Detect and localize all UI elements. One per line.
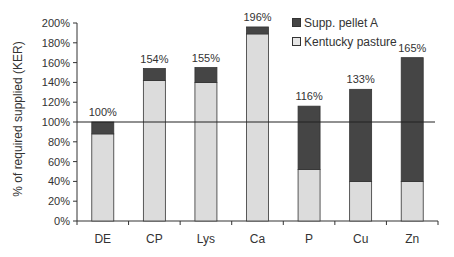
legend-item-pasture: Kentucky pasture: [292, 32, 397, 51]
bar-segment-pellet: [195, 68, 217, 83]
bar-segment-pasture: [247, 34, 269, 221]
bar-segment-pasture: [92, 134, 114, 221]
y-tick-label: 80%: [48, 136, 70, 148]
bar-segment-pasture: [143, 80, 165, 221]
legend-swatch-pellet: [292, 18, 301, 27]
y-tick-label: 40%: [48, 175, 70, 187]
total-value-label: 116%: [295, 90, 323, 102]
legend-label-pellet: Supp. pellet A: [304, 16, 378, 30]
y-tick-label: 0%: [54, 215, 70, 227]
x-category-label: DE: [94, 232, 111, 246]
bar-segment-pasture: [350, 181, 372, 221]
bar-segment-pasture: [195, 82, 217, 221]
bar-segment-pasture: [401, 181, 423, 221]
total-value-label: 165%: [398, 42, 426, 54]
bar-segment-pellet: [247, 27, 269, 34]
total-value-label: 133%: [347, 73, 375, 85]
bar-segment-pasture: [298, 170, 320, 221]
bar-segment-pellet: [350, 89, 372, 181]
total-value-label: 100%: [89, 106, 117, 118]
y-tick-label: 60%: [48, 156, 70, 168]
bar-segment-pellet: [401, 58, 423, 182]
y-tick-label: 100%: [42, 116, 70, 128]
x-category-label: CP: [146, 232, 163, 246]
y-tick-label: 20%: [48, 195, 70, 207]
legend-label-pasture: Kentucky pasture: [304, 35, 397, 49]
y-tick-label: 160%: [42, 57, 70, 69]
y-axis-label: % of required supplied (KER): [11, 39, 25, 199]
bar-segment-pellet: [92, 122, 114, 134]
legend-item-pellet: Supp. pellet A: [292, 13, 397, 32]
legend: Supp. pellet A Kentucky pasture: [292, 13, 397, 51]
y-tick-label: 120%: [42, 96, 70, 108]
x-category-label: Cu: [353, 232, 368, 246]
legend-swatch-pasture: [292, 37, 301, 46]
bar-segment-pellet: [143, 69, 165, 81]
total-value-label: 155%: [192, 52, 220, 64]
y-tick-label: 140%: [42, 76, 70, 88]
x-category-label: Zn: [405, 232, 419, 246]
x-category-label: Ca: [250, 232, 266, 246]
total-value-label: 196%: [243, 11, 271, 23]
x-category-label: Lys: [197, 232, 215, 246]
bar-segment-pellet: [298, 106, 320, 169]
x-category-label: P: [305, 232, 313, 246]
total-value-label: 154%: [140, 53, 168, 65]
stacked-bar-chart: 0%20%40%60%80%100%120%140%160%180%200%10…: [0, 0, 454, 257]
y-tick-label: 180%: [42, 37, 70, 49]
y-tick-label: 200%: [42, 17, 70, 29]
